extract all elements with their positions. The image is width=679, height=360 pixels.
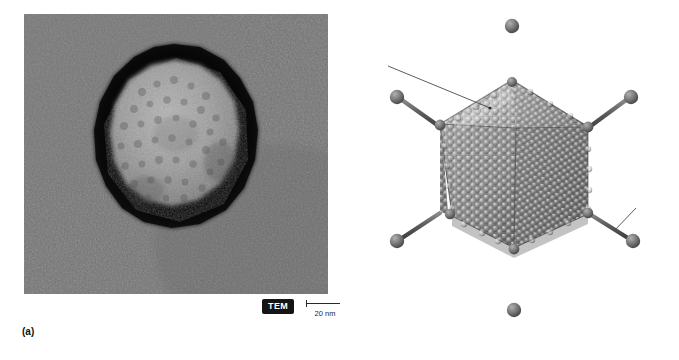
virion-blotch-1 — [204, 142, 236, 182]
scale-bar: 20 nm — [306, 300, 344, 318]
scale-bar-rule — [306, 303, 344, 304]
micrograph-canvas — [24, 14, 328, 294]
virion-blotch-2 — [128, 176, 164, 204]
micrograph-annotation-row: TEM 20 nm — [262, 299, 342, 323]
adenovirus-illustration — [340, 0, 679, 360]
panel-b: Capsomere Spike (b) — [340, 0, 679, 360]
electron-micrograph-image — [24, 14, 328, 294]
virus-figure: TEM 20 nm (a) — [0, 0, 679, 360]
tem-badge: TEM — [262, 299, 294, 314]
scale-bar-line — [306, 300, 344, 307]
panel-a: TEM 20 nm (a) — [0, 0, 340, 360]
capsomere-leader-dot — [488, 106, 491, 109]
panel-a-caption: (a) — [22, 326, 34, 337]
virion-blotch-3 — [154, 116, 198, 152]
scale-bar-label: 20 nm — [306, 309, 344, 318]
